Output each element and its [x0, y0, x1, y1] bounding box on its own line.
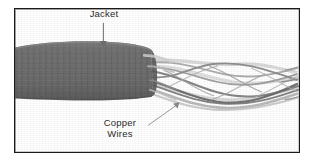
label-copper-line-2: Wires: [90, 129, 150, 140]
label-jacket-line-1: Jacket: [74, 9, 134, 20]
figure-container: Jacket Copper Wires: [0, 0, 317, 166]
cable-illustration: [15, 9, 299, 152]
copper-wires-leader-arrow: [148, 102, 179, 125]
figure-border: [14, 8, 300, 153]
label-jacket: Jacket: [74, 9, 134, 20]
label-copper-wires: Copper Wires: [90, 118, 150, 139]
cable-jacket: [15, 41, 157, 100]
label-copper-line-1: Copper: [90, 118, 150, 129]
